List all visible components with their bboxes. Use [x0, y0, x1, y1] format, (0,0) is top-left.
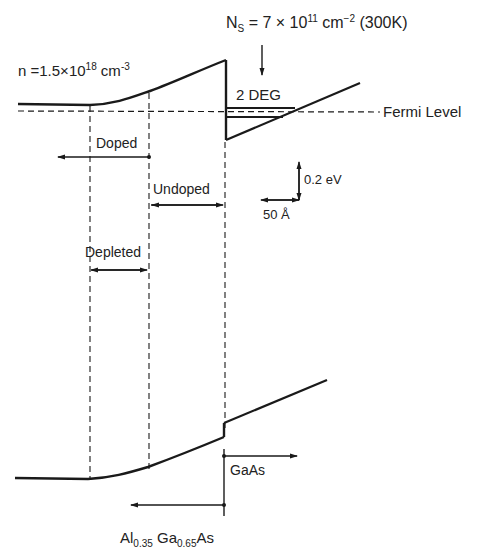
- doped-label: Doped: [96, 136, 137, 150]
- algaas-ga: Ga: [153, 529, 177, 546]
- length-scale-label: 50 Å: [263, 208, 290, 221]
- ns-value: = 7 × 10: [244, 14, 307, 31]
- ns-unit: cm: [318, 14, 344, 31]
- algaas-ga-fraction: 0.65: [177, 538, 196, 549]
- fermi-level-line: [18, 111, 380, 112]
- doping-unit: cm: [97, 62, 121, 79]
- energy-scale-label: 0.2 eV: [304, 173, 342, 186]
- algaas-al: Al: [120, 529, 133, 546]
- undoped-label: Undoped: [153, 182, 210, 196]
- doping-value: n =1.5×10: [18, 62, 86, 79]
- sheet-density-label: NS = 7 × 1011 cm−2 (300K): [226, 14, 407, 34]
- ns-unit-exponent: −2: [344, 13, 355, 24]
- ns-exponent: 11: [307, 13, 317, 24]
- algaas-label: Al0.35 Ga0.65As: [120, 530, 214, 549]
- gaas-valence-band: [224, 380, 327, 423]
- band-diagram: n =1.5×1018 cm-3 NS = 7 × 1011 cm−2 (300…: [0, 0, 489, 549]
- fermi-level-label: Fermi Level: [383, 104, 461, 119]
- doping-unit-exponent: -3: [121, 61, 130, 72]
- depleted-label: Depleted: [85, 245, 141, 259]
- gaas-label: GaAs: [230, 463, 265, 477]
- two-deg-label: 2 DEG: [236, 87, 281, 102]
- algaas-as: As: [196, 529, 214, 546]
- doping-label: n =1.5×1018 cm-3: [18, 62, 130, 78]
- doping-exponent: 18: [86, 61, 97, 72]
- algaas-al-fraction: 0.35: [133, 538, 152, 549]
- ns-temperature: (300K): [355, 14, 407, 31]
- valence-band-curve: [15, 437, 224, 479]
- ns-symbol: N: [226, 14, 238, 31]
